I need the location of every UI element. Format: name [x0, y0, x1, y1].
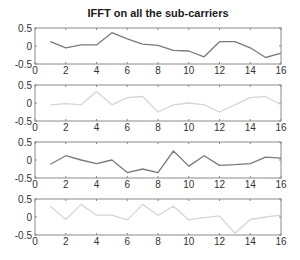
y-tick-label: -0.5: [15, 230, 33, 241]
figure: IFFT on all the sub-carriers 02468101214…: [0, 0, 300, 260]
x-tick-label: 16: [275, 65, 287, 76]
x-tick-label: 10: [183, 65, 195, 76]
x-tick-label: 12: [214, 179, 226, 190]
x-tick-label: 8: [155, 179, 161, 190]
x-tick-label: 16: [275, 236, 287, 247]
y-tick-label: 0.5: [18, 194, 32, 205]
x-tick-label: 6: [124, 236, 130, 247]
x-tick-label: 12: [214, 65, 226, 76]
y-tick-label: 0: [26, 98, 32, 109]
x-tick-label: 2: [63, 179, 69, 190]
x-tick-label: 0: [32, 236, 38, 247]
y-tick-label: 0: [26, 41, 32, 52]
subplot-4: 0246810121416-0.500.5: [15, 194, 287, 247]
x-tick-label: 2: [63, 122, 69, 133]
x-tick-label: 4: [94, 65, 100, 76]
y-tick-label: -0.5: [15, 59, 33, 70]
x-tick-label: 16: [275, 122, 287, 133]
x-tick-label: 14: [245, 179, 257, 190]
x-tick-label: 14: [245, 236, 257, 247]
y-tick-label: -0.5: [15, 173, 33, 184]
chart-title: IFFT on all the sub-carriers: [87, 7, 228, 19]
x-tick-label: 0: [32, 122, 38, 133]
x-tick-label: 10: [183, 236, 195, 247]
y-tick-label: 0: [26, 212, 32, 223]
y-tick-label: 0.5: [18, 137, 32, 148]
x-tick-label: 2: [63, 65, 69, 76]
x-tick-label: 10: [183, 122, 195, 133]
x-tick-label: 6: [124, 122, 130, 133]
x-tick-label: 4: [94, 179, 100, 190]
x-tick-label: 12: [214, 122, 226, 133]
x-tick-label: 14: [245, 65, 257, 76]
x-tick-label: 6: [124, 65, 130, 76]
subplot-1: 0246810121416-0.500.5: [15, 23, 287, 76]
subplot-2: 0246810121416-0.500.5: [15, 80, 287, 133]
x-tick-label: 2: [63, 236, 69, 247]
x-tick-label: 0: [32, 65, 38, 76]
x-tick-label: 8: [155, 122, 161, 133]
x-tick-label: 16: [275, 179, 287, 190]
x-tick-label: 14: [245, 122, 257, 133]
x-tick-label: 10: [183, 179, 195, 190]
x-tick-label: 4: [94, 122, 100, 133]
y-tick-label: 0.5: [18, 80, 32, 91]
x-tick-label: 4: [94, 236, 100, 247]
subplot-3: 0246810121416-0.500.5: [15, 137, 287, 190]
y-tick-label: -0.5: [15, 116, 33, 127]
y-tick-label: 0: [26, 155, 32, 166]
axes-frame: [35, 85, 281, 121]
x-tick-label: 12: [214, 236, 226, 247]
x-tick-label: 8: [155, 236, 161, 247]
x-tick-label: 6: [124, 179, 130, 190]
subplots: 0246810121416-0.500.50246810121416-0.500…: [15, 23, 287, 247]
x-tick-label: 8: [155, 65, 161, 76]
axes-frame: [35, 199, 281, 235]
y-tick-label: 0.5: [18, 23, 32, 34]
x-tick-label: 0: [32, 179, 38, 190]
